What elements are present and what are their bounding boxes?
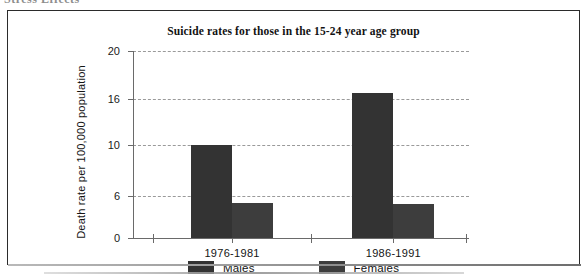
chart-title: Suicide rates for those in the 15-24 yea…	[8, 25, 579, 37]
figure-frame: Suicide rates for those in the 15-24 yea…	[7, 10, 580, 265]
plot-area: 06101620 1976-19811986-1991	[126, 41, 469, 239]
scanned-page-text-fragment: Stress Effects	[4, 0, 124, 9]
y-tick-label-16: 16	[108, 93, 120, 105]
page-bottom-rule	[44, 272, 464, 274]
x-axis-line	[133, 238, 469, 239]
bar-males-1986-1991	[352, 93, 393, 238]
y-tick-label-0: 0	[114, 232, 120, 244]
bar-females-1976-1981	[232, 203, 273, 238]
y-tick-label-10: 10	[108, 139, 120, 151]
y-axis-title: Death rate per 100,000 population	[75, 57, 87, 247]
bar-females-1986-1991	[393, 204, 434, 238]
bars-layer	[133, 51, 469, 238]
x-group-label-1976-1981: 1976-1981	[204, 247, 259, 259]
y-tick-mark-0	[128, 238, 134, 239]
scanned-fragment-label: Stress Effects	[4, 0, 80, 7]
y-tick-label-20: 20	[108, 45, 120, 57]
bar-males-1976-1981	[191, 145, 232, 238]
y-tick-label-6: 6	[114, 190, 120, 202]
x-group-label-1986-1991: 1986-1991	[366, 247, 421, 259]
